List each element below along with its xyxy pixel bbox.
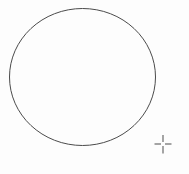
circle-shape <box>10 9 156 146</box>
crosshair-cursor-icon <box>155 135 172 154</box>
canvas-surface <box>0 0 189 174</box>
drawing-canvas[interactable] <box>0 0 189 174</box>
